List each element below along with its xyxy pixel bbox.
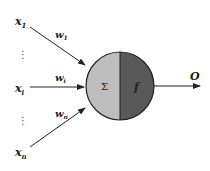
ellipsis-bottom: ⋮: [18, 115, 28, 126]
neuron-diagram: x1 xi xn w1 wi wn ⋮ ⋮ Σ f O: [0, 0, 210, 171]
output-label: O: [190, 70, 200, 83]
input-label-i: xi: [14, 82, 25, 97]
input-label-1: x1: [14, 15, 26, 30]
weight-label-i: wi: [55, 72, 67, 84]
sum-symbol: Σ: [101, 81, 108, 92]
weight-label-n: wn: [55, 108, 68, 120]
weight-label-1: w1: [55, 29, 68, 41]
neuron-body: [86, 52, 154, 120]
input-label-n: xn: [14, 146, 27, 161]
ellipsis-top: ⋮: [18, 49, 28, 60]
